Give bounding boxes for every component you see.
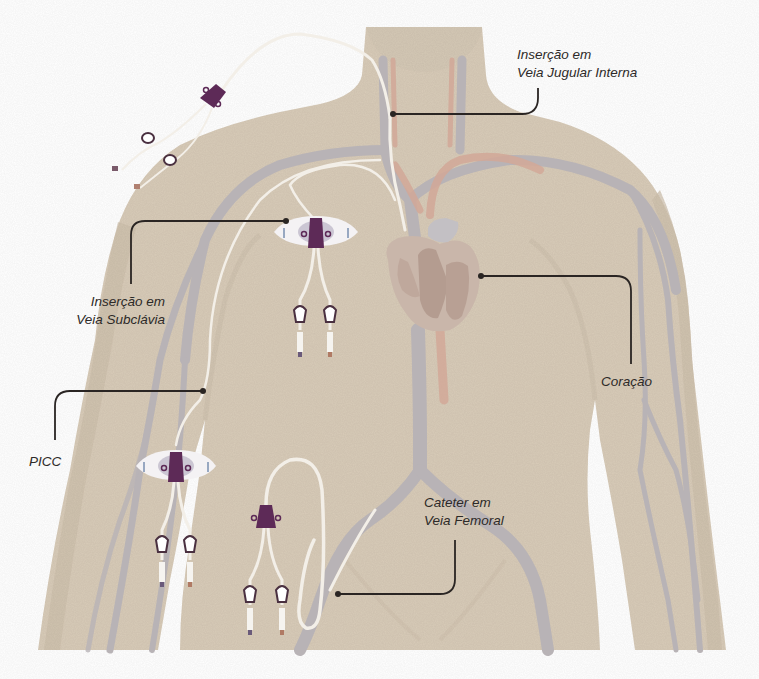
label-jugular-line1: Inserção em (517, 46, 637, 64)
label-heart-line1: Coração (601, 373, 652, 391)
label-subclavian-line2: Veia Subclávia (40, 311, 165, 329)
anatomy-illustration (0, 0, 759, 679)
label-subclavian-line1: Inserção em (40, 293, 165, 311)
label-jugular-line2: Veia Jugular Interna (517, 64, 637, 82)
label-femoral-line1: Cateter em (424, 494, 504, 512)
label-jugular-insertion: Inserção em Veia Jugular Interna (517, 46, 637, 82)
label-heart: Coração (601, 373, 652, 391)
label-picc: PICC (29, 453, 61, 471)
label-subclavian-insertion: Inserção em Veia Subclávia (40, 293, 165, 329)
label-femoral-catheter: Cateter em Veia Femoral (424, 494, 504, 530)
label-picc-line1: PICC (29, 453, 61, 471)
catheter-diagram: Inserção em Veia Jugular Interna Inserçã… (0, 0, 759, 679)
label-femoral-line2: Veia Femoral (424, 512, 504, 530)
